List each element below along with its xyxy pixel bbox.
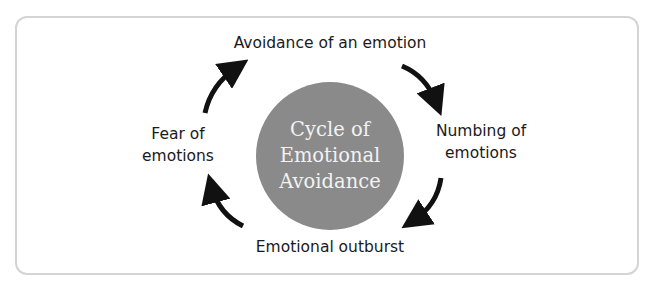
arrow-bottom-to-left-icon xyxy=(212,188,243,226)
center-title-line-3: Avoidance xyxy=(279,169,380,195)
arrow-top-to-right-icon xyxy=(402,66,436,102)
node-right-line-2: emotions xyxy=(426,142,536,164)
node-top: Avoidance of an emotion xyxy=(218,32,442,54)
center-circle: Cycle of Emotional Avoidance xyxy=(256,82,404,230)
node-bottom: Emotional outburst xyxy=(238,236,422,258)
node-right-line-1: Numbing of xyxy=(426,120,536,142)
arrow-left-to-top-icon xyxy=(205,68,236,113)
center-title-line-1: Cycle of xyxy=(290,117,370,143)
node-right: Numbing of emotions xyxy=(426,120,536,164)
node-left-line-1: Fear of xyxy=(128,123,228,145)
arrow-right-to-bottom-icon xyxy=(414,178,441,220)
center-title-line-2: Emotional xyxy=(280,143,381,169)
node-left: Fear of emotions xyxy=(128,123,228,167)
node-bottom-text: Emotional outburst xyxy=(256,238,404,256)
node-left-line-2: emotions xyxy=(128,145,228,167)
node-top-text: Avoidance of an emotion xyxy=(234,34,427,52)
